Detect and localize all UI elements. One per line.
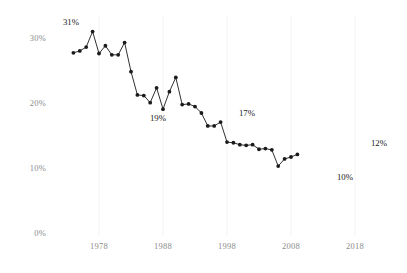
data-point <box>251 143 255 147</box>
data-point <box>136 93 140 97</box>
data-point <box>296 153 300 157</box>
data-point <box>270 148 274 152</box>
xtick-label-2008: 2008 <box>271 241 311 251</box>
data-point <box>110 53 114 57</box>
data-point <box>200 111 204 115</box>
data-point <box>193 105 197 109</box>
plot-area <box>0 0 407 273</box>
data-label-mid: 17% <box>232 108 262 118</box>
data-label-min: 10% <box>330 172 360 182</box>
data-point <box>289 155 293 159</box>
ytick-label-20: 20% <box>12 98 46 108</box>
xtick-label-1998: 1998 <box>207 241 247 251</box>
ytick-label-10: 10% <box>12 163 46 173</box>
data-point <box>225 140 229 144</box>
data-point <box>116 53 120 57</box>
data-point <box>72 51 76 55</box>
ytick-label-0: 0% <box>12 228 46 238</box>
series-markers <box>72 30 300 168</box>
data-point <box>206 124 210 128</box>
data-point <box>174 76 178 80</box>
data-point <box>212 124 216 128</box>
data-point <box>161 107 165 111</box>
series-line <box>73 32 297 167</box>
data-point <box>180 103 184 107</box>
data-point <box>232 141 236 145</box>
data-point <box>257 147 261 151</box>
data-point <box>155 86 159 90</box>
data-label-end: 12% <box>364 138 394 148</box>
data-point <box>123 41 127 45</box>
data-point <box>84 45 88 49</box>
data-label-dip: 19% <box>143 113 173 123</box>
data-point <box>78 49 82 53</box>
data-point <box>238 143 242 147</box>
data-point <box>168 90 172 94</box>
data-point <box>187 102 191 106</box>
data-point <box>148 101 152 105</box>
data-point <box>97 52 101 56</box>
line-chart: 30% 20% 10% 0% 1978 1988 1998 2008 2018 … <box>0 0 407 273</box>
ytick-label-30: 30% <box>12 33 46 43</box>
data-point <box>142 94 146 98</box>
data-point <box>219 120 223 124</box>
data-point <box>91 30 95 34</box>
xtick-label-1978: 1978 <box>79 241 119 251</box>
data-label-peak: 31% <box>56 17 86 27</box>
data-point <box>283 157 287 161</box>
data-point <box>264 147 268 151</box>
data-point <box>104 44 108 48</box>
data-point <box>129 70 133 74</box>
vertical-gridlines <box>99 16 355 236</box>
xtick-label-2018: 2018 <box>335 241 375 251</box>
xtick-label-1988: 1988 <box>143 241 183 251</box>
data-point <box>276 164 280 168</box>
data-point <box>244 143 248 147</box>
